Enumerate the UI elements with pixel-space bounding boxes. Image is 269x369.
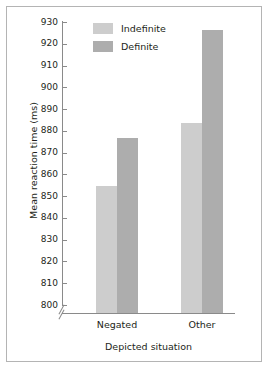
axis-break-icon [56, 305, 70, 319]
x-axis-category-label: Negated [76, 319, 158, 330]
y-axis-tick [63, 174, 67, 175]
bar-negated-definite [117, 138, 138, 313]
legend-item-indefinite: Indefinite [93, 22, 166, 35]
bar-other-indefinite [181, 123, 202, 313]
x-axis-line [62, 313, 235, 314]
legend-label: Indefinite [121, 23, 166, 34]
legend-swatch-definite [93, 41, 113, 52]
y-axis-tick [63, 109, 67, 110]
y-axis-tick [63, 87, 67, 88]
y-axis-tick [63, 218, 67, 219]
x-axis-title: Depicted situation [62, 341, 235, 352]
y-axis-tick [63, 131, 67, 132]
bar-negated-indefinite [96, 186, 117, 313]
y-axis-title: Mean reaction time (ms) [28, 81, 39, 241]
y-axis-tick [63, 153, 67, 154]
legend: IndefiniteDefinite [93, 22, 166, 58]
y-axis-tick [63, 44, 67, 45]
legend-label: Definite [121, 41, 158, 52]
y-axis-tick-label: 910 [18, 61, 58, 70]
bar-other-definite [202, 30, 223, 313]
y-axis-tick [63, 196, 67, 197]
y-axis-tick-label: 820 [18, 257, 58, 266]
y-axis-tick [63, 240, 67, 241]
y-axis-tick-label: 800 [18, 301, 58, 310]
plot-area: 9309209109008908808708608508408308208108… [0, 0, 269, 369]
y-axis-tick [63, 22, 67, 23]
y-axis-tick [63, 283, 67, 284]
figure: 9309209109008908808708608508408308208108… [0, 0, 269, 369]
y-axis-tick-label: 810 [18, 279, 58, 288]
y-axis-tick-label: 920 [18, 39, 58, 48]
y-axis-tick-label: 930 [18, 18, 58, 27]
y-axis-tick [63, 66, 67, 67]
y-axis-line [62, 21, 63, 306]
legend-item-definite: Definite [93, 40, 166, 53]
legend-swatch-indefinite [93, 23, 113, 34]
y-axis-tick [63, 305, 67, 306]
x-axis-category-label: Other [161, 319, 243, 330]
y-axis-tick [63, 261, 67, 262]
